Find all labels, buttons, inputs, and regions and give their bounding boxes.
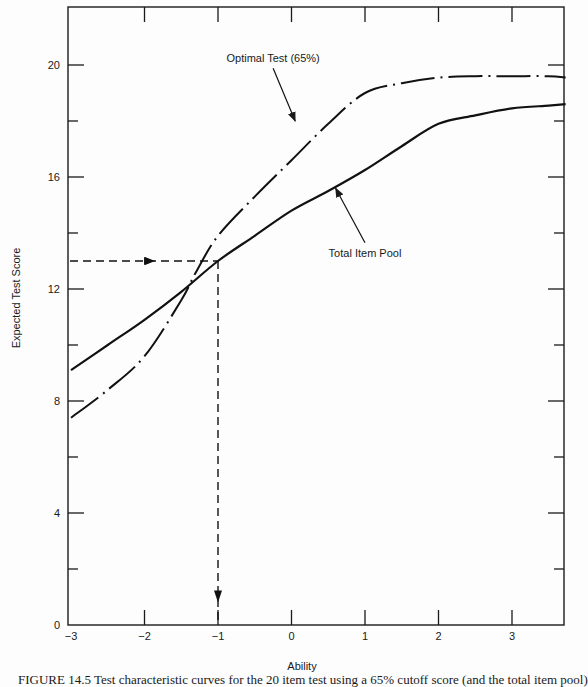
x-axis-label: Ability [287, 660, 317, 672]
annotation-label: Total Item Pool [329, 247, 402, 259]
x-tick-label: −2 [138, 630, 151, 642]
y-axis-label: Expected Test Score [10, 248, 22, 349]
annotation-label: Optimal Test (65%) [226, 52, 319, 64]
y-tick-label: 12 [48, 283, 60, 295]
x-tick-label: 2 [435, 630, 441, 642]
y-tick-label: 20 [48, 59, 60, 71]
arrowhead-right-icon [145, 257, 155, 265]
annotation-arrow-icon [336, 188, 365, 243]
annotations: Optimal Test (65%)Total Item Pool [70, 52, 401, 625]
annotation-arrow-icon [273, 68, 295, 121]
x-tick-label: 0 [288, 630, 294, 642]
axis-tick-labels: −3−2−10123048121620 [48, 59, 515, 642]
y-tick-label: 0 [54, 619, 60, 631]
total-item-pool-line [71, 104, 566, 370]
y-tick-label: 8 [54, 395, 60, 407]
series-lines [71, 76, 566, 418]
y-tick-label: 4 [54, 507, 60, 519]
x-tick-label: −1 [212, 630, 225, 642]
arrowhead-down-icon [214, 591, 222, 603]
x-tick-label: −3 [65, 630, 78, 642]
optimal-test-65-line [71, 76, 566, 418]
plot-frame [68, 7, 564, 625]
y-tick-label: 16 [48, 171, 60, 183]
axis-ticks [68, 7, 564, 625]
figure-caption: FIGURE 14.5 Test characteristic curves f… [18, 673, 588, 686]
x-tick-label: 1 [362, 630, 368, 642]
x-tick-label: 3 [509, 630, 515, 642]
